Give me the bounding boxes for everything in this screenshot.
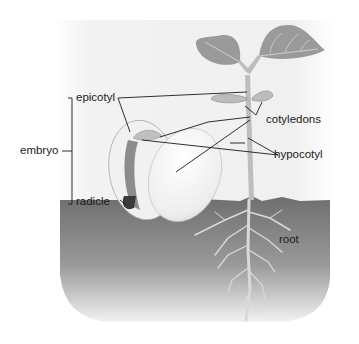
label-root: root — [279, 234, 299, 246]
label-epicotyl: epicotyl — [76, 92, 115, 104]
label-hypocotyl: hypocotyl — [274, 149, 323, 161]
label-cotyledons: cotyledons — [266, 114, 321, 126]
diagram-canvas — [0, 0, 359, 344]
label-radicle: radicle — [76, 196, 110, 208]
label-embryo: embryo — [20, 145, 58, 157]
seed-germination-diagram: epicotyl embryo radicle cotyledons hypoc… — [0, 0, 359, 344]
